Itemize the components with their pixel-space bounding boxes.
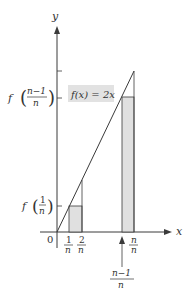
f-prefix: f [7,92,14,105]
numerator: 2 [79,235,85,245]
denominator: n [118,280,124,290]
riemann-sum-diagram: y x 0 f(x) = 2x f ( n−1 n ) f ( 1 n ) 1 [0,0,194,293]
numerator: 1 [40,195,46,205]
denominator: n [78,245,84,255]
function-label: f(x) = 2x [70,89,115,100]
f-prefix: f [21,200,28,213]
pointer-arrow-icon [119,236,125,244]
y-tick-label-f-1: f ( 1 n ) [21,195,54,216]
x-axis-label: x [176,225,183,238]
x-tick-label-n-over-n: n n [129,235,138,255]
y-tick-label-f-n-minus-1: f ( n−1 n ) [7,86,55,108]
denominator: n [65,245,71,255]
rectangle-first [69,206,82,232]
denominator: n [39,206,45,216]
origin-label: 0 [47,234,53,245]
rectangle-last [122,97,134,232]
left-paren: ( [32,196,39,216]
left-paren: ( [20,87,27,108]
right-paren: ) [48,87,55,108]
numerator: 1 [66,235,72,245]
numerator: n−1 [112,268,131,278]
denominator: n [131,245,137,255]
right-paren: ) [47,196,54,216]
x-tick-label-2-over-n: 2 n [77,235,86,255]
numerator: n [131,235,137,245]
numerator: n−1 [27,86,46,96]
x-axis-arrow-icon [164,229,172,235]
y-axis-label: y [51,10,59,23]
denominator: n [33,98,39,108]
y-axis-arrow-icon [54,26,60,34]
pointer-label-n-minus-1-over-n: n−1 n [110,268,134,290]
x-tick-label-1-over-n: 1 n [64,235,73,255]
